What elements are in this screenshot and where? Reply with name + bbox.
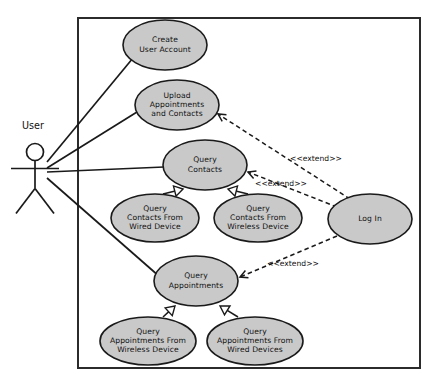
uml-canvas: User <<extend>><<extend>><<extend>> Crea… bbox=[0, 0, 435, 380]
use-case-query-contacts[interactable]: QueryContacts bbox=[163, 140, 247, 190]
actor-leg-right bbox=[35, 189, 54, 214]
use-case-upload-appointments-and-contacts[interactable]: UploadAppointmentsand Contacts bbox=[135, 80, 219, 130]
use-case-label-line: Log In bbox=[358, 214, 382, 223]
use-case-label-line: Query bbox=[184, 271, 208, 280]
use-case-label-line: Upload bbox=[163, 91, 190, 100]
use-case-label-line: Appointments From bbox=[110, 336, 186, 345]
use-case-label-line: Query bbox=[246, 204, 270, 213]
use-case-label-line: Wireless Device bbox=[227, 222, 289, 231]
extend-login-to-upload-label: <<extend>> bbox=[290, 154, 342, 163]
use-case-label-line: Appointments bbox=[169, 281, 223, 290]
use-case-query-contacts-from-wired-device[interactable]: QueryContacts FromWired Device bbox=[111, 194, 199, 242]
use-case-query-appointments[interactable]: QueryAppointments bbox=[154, 256, 238, 306]
actor-head-icon bbox=[27, 144, 44, 161]
extend-login-to-query-contacts-label: <<extend>> bbox=[255, 179, 307, 188]
use-case-label-line: Contacts bbox=[188, 165, 222, 174]
use-case-create-user-account[interactable]: CreateUser Account bbox=[123, 20, 207, 70]
use-case-label-line: Appointments bbox=[150, 100, 204, 109]
actor-label: User bbox=[22, 120, 44, 131]
use-case-query-appointments-from-wireless-device[interactable]: QueryAppointments FromWireless Device bbox=[100, 317, 196, 365]
use-case-query-appointments-from-wired-devices[interactable]: QueryAppointments FromWired Devices bbox=[207, 317, 303, 365]
use-case-label-line: User Account bbox=[139, 45, 191, 54]
use-case-label-line: Query bbox=[193, 155, 217, 164]
use-case-label-line: Contacts From bbox=[230, 213, 286, 222]
use-case-label-line: Wireless Device bbox=[117, 345, 179, 354]
use-case-label-line: Contacts From bbox=[127, 213, 183, 222]
extend-login-to-query-appointments-label: <<extend>> bbox=[267, 259, 319, 268]
use-case-label-line: Create bbox=[152, 35, 178, 44]
actor-user[interactable]: User bbox=[11, 120, 59, 214]
actor-leg-left bbox=[16, 189, 35, 214]
use-case-query-contacts-from-wireless-device[interactable]: QueryContacts FromWireless Device bbox=[214, 194, 302, 242]
use-case-log-in[interactable]: Log In bbox=[328, 194, 412, 244]
use-case-label-line: Wired Device bbox=[129, 222, 181, 231]
use-case-label-line: Query bbox=[136, 327, 160, 336]
use-case-label-line: Appointments From bbox=[217, 336, 293, 345]
system-boundary-box bbox=[78, 18, 420, 368]
use-case-label-line: Wired Devices bbox=[227, 345, 283, 354]
use-case-label-line: and Contacts bbox=[151, 109, 202, 118]
use-case-diagram: User <<extend>><<extend>><<extend>> Crea… bbox=[0, 0, 435, 380]
use-case-label-line: Query bbox=[243, 327, 267, 336]
use-case-label-line: Query bbox=[143, 204, 167, 213]
